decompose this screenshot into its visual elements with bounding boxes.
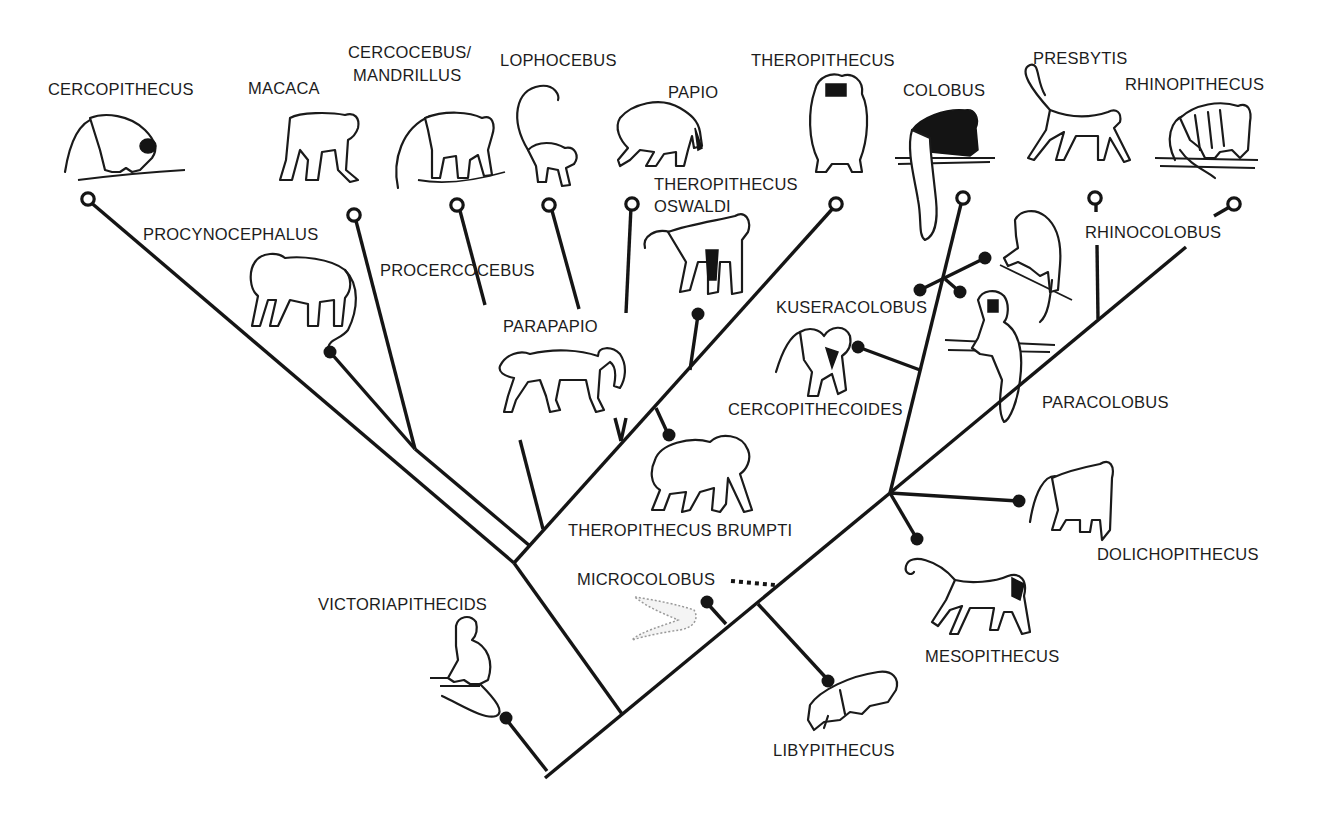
microcolobus-dots bbox=[731, 581, 775, 585]
victoriapithecids-illustration-icon bbox=[430, 617, 500, 717]
branch-dolichopithecus-stem bbox=[890, 493, 1018, 501]
fossil-node-icon bbox=[701, 596, 714, 609]
label-mandrillus: MANDRILLUS bbox=[353, 66, 461, 84]
branch-mesopithecus-stem bbox=[890, 493, 917, 539]
label-oswaldi: OSWALDI bbox=[654, 197, 731, 215]
extant-node-icon bbox=[348, 209, 360, 221]
extant-node-icon bbox=[543, 199, 555, 211]
branch-libypithecus-stem bbox=[758, 604, 828, 680]
label-rhinocolobus: RHINOCOLOBUS bbox=[1085, 223, 1221, 241]
parapapio-illustration-icon bbox=[500, 348, 625, 412]
fossil-node-icon bbox=[979, 252, 992, 265]
theropithecus-brumpti-illustration-icon bbox=[652, 436, 752, 512]
libypithecus-skull-illustration-icon bbox=[808, 672, 897, 730]
label-procynocephalus: PROCYNOCEPHALUS bbox=[143, 225, 318, 243]
fossil-node-icon bbox=[324, 346, 337, 359]
branch-cercopithecoides-stem bbox=[858, 347, 920, 370]
label-theropithecus-brumpti: THEROPITHECUS BRUMPTI bbox=[568, 521, 792, 539]
lophocebus-illustration-icon bbox=[517, 86, 576, 186]
fossil-node-icon bbox=[1013, 495, 1026, 508]
label-presbytis: PRESBYTIS bbox=[1033, 49, 1127, 67]
dolichopithecus-illustration-icon bbox=[1030, 462, 1113, 540]
procynocephalus-illustration-icon bbox=[251, 254, 356, 348]
papio-illustration-icon bbox=[618, 102, 702, 166]
branch-victoriapithecid-stem bbox=[506, 719, 547, 771]
label-lophocebus: LOPHOCEBUS bbox=[500, 51, 617, 69]
fossil-node-icon bbox=[914, 284, 927, 297]
branch-rhinocolobus-connector bbox=[1097, 245, 1098, 319]
phylogeny-diagram: CERCOPITHECUS MACACA CERCOCEBUS/ MANDRIL… bbox=[0, 0, 1333, 830]
presbytis-illustration-icon bbox=[1026, 65, 1130, 162]
fossil-node-icon bbox=[911, 533, 924, 546]
label-kuseracolobus: KUSERACOLOBUS bbox=[776, 298, 927, 316]
label-rhinopithecus: RHINOPITHECUS bbox=[1125, 75, 1264, 93]
label-microcolobus: MICROCOLOBUS bbox=[577, 570, 715, 588]
label-papio: PAPIO bbox=[668, 83, 718, 101]
label-victoriapithecids: VICTORIAPITHECIDS bbox=[318, 595, 487, 613]
extant-node-icon bbox=[451, 199, 463, 211]
theropithecus-illustration-icon bbox=[810, 75, 867, 172]
label-libypithecus: LIBYPITHECUS bbox=[773, 741, 895, 759]
label-colobus: COLOBUS bbox=[903, 81, 985, 99]
cercopithecoides-illustration-icon bbox=[776, 328, 851, 396]
label-theropithecus: THEROPITHECUS bbox=[751, 51, 895, 69]
label-paracolobus: PARACOLOBUS bbox=[1042, 393, 1169, 411]
theropithecus-oswaldi-illustration-icon bbox=[645, 214, 750, 294]
label-theropithecus-oswaldi: THEROPITHECUS bbox=[654, 175, 798, 193]
label-cercopithecoides: CERCOPITHECOIDES bbox=[728, 400, 903, 418]
microcolobus-jaw-illustration-icon bbox=[632, 597, 696, 640]
label-parapapio: PARAPAPIO bbox=[503, 317, 598, 335]
label-mesopithecus: MESOPITHECUS bbox=[925, 647, 1059, 665]
macaca-illustration-icon bbox=[280, 113, 358, 182]
branch-procercocebus-stub bbox=[520, 440, 543, 529]
branch-papio-stem bbox=[626, 207, 631, 313]
fossil-node-icon bbox=[822, 675, 835, 688]
kuseracolobus-illustration-icon bbox=[1000, 211, 1072, 322]
branch-cerco-left-inner bbox=[415, 449, 530, 546]
fossil-node-icon bbox=[692, 308, 705, 321]
branch-colobine-to-colobus bbox=[890, 200, 962, 493]
label-cercopithecus: CERCOPITHECUS bbox=[48, 80, 194, 98]
extant-node-icon bbox=[626, 198, 638, 210]
cercopithecus-illustration-icon bbox=[65, 115, 185, 180]
branch-papionin-main bbox=[514, 206, 835, 563]
phylogeny-tree-canvas: CERCOPITHECUS MACACA CERCOCEBUS/ MANDRIL… bbox=[0, 0, 1333, 830]
fossil-node-icon bbox=[852, 341, 865, 354]
branch-cerco-left-outer bbox=[88, 200, 514, 563]
extant-node-icon bbox=[1228, 198, 1240, 210]
branch-lophocebus-stem bbox=[551, 207, 579, 309]
fossil-node-icon bbox=[500, 712, 513, 725]
extant-node-icon bbox=[1089, 192, 1101, 204]
extant-node-icon bbox=[957, 192, 969, 204]
dotted-links bbox=[731, 581, 775, 585]
mesopithecus-illustration-icon bbox=[906, 559, 1030, 634]
cercocebus-illustration-icon bbox=[396, 113, 505, 188]
colobus-illustration-icon bbox=[895, 110, 995, 240]
rhinopithecus-illustration-icon bbox=[1155, 103, 1258, 178]
label-procercocebus: PROCERCOCEBUS bbox=[380, 261, 535, 279]
label-macaca: MACACA bbox=[248, 79, 320, 97]
label-cercocebus: CERCOCEBUS/ bbox=[348, 43, 471, 61]
extant-node-icon bbox=[830, 198, 842, 210]
branch-cercocebus-stem bbox=[459, 207, 485, 305]
extant-node-icon bbox=[82, 193, 94, 205]
fossil-node-icon bbox=[954, 286, 967, 299]
label-dolichopithecus: DOLICHOPITHECUS bbox=[1097, 545, 1259, 563]
fossil-node-icon bbox=[663, 429, 676, 442]
